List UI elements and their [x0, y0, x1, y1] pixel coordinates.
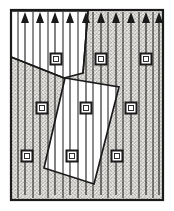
- square-node: [22, 151, 33, 162]
- square-node: [112, 151, 123, 162]
- square-node: [37, 103, 48, 114]
- square-node: [81, 103, 92, 114]
- square-node: [141, 54, 152, 65]
- square-node: [96, 54, 107, 65]
- flow-field-diagram: Flow field with arrows, node squares and…: [0, 0, 174, 211]
- square-node: [126, 103, 137, 114]
- square-node: [51, 54, 62, 65]
- square-node: [67, 151, 78, 162]
- figure-root: Flow field with arrows, node squares and…: [0, 0, 174, 211]
